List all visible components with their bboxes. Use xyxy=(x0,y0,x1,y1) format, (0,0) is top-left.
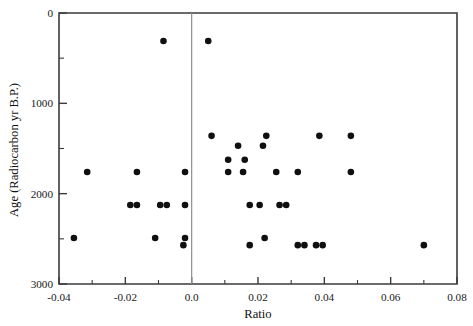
data-point xyxy=(157,202,164,209)
data-point xyxy=(225,156,232,163)
data-point xyxy=(348,133,355,140)
data-point xyxy=(182,235,189,242)
data-point xyxy=(283,202,290,209)
x-tick-label: -0.04 xyxy=(47,291,71,303)
data-point xyxy=(256,202,263,209)
x-tick-label: 0.04 xyxy=(315,291,335,303)
data-point xyxy=(182,169,189,176)
x-tick-label: 0.06 xyxy=(381,291,401,303)
data-point xyxy=(84,169,91,176)
data-point xyxy=(71,235,78,242)
data-point xyxy=(421,242,428,249)
major-tick-marks xyxy=(59,13,457,284)
data-point xyxy=(160,38,167,45)
x-tick-label: -0.02 xyxy=(114,291,137,303)
data-point xyxy=(276,202,283,209)
axes-frame xyxy=(59,13,457,284)
data-point xyxy=(319,242,326,249)
data-point xyxy=(163,202,170,209)
x-tick-label: 0.08 xyxy=(447,291,467,303)
data-point xyxy=(241,156,248,163)
data-point xyxy=(205,38,212,45)
y-axis-title: Age (Radiocarbon yr B.P.) xyxy=(7,83,21,217)
data-point xyxy=(313,242,320,249)
x-tick-label: 0.0 xyxy=(185,291,199,303)
y-tick-label: 2000 xyxy=(31,188,54,200)
x-tick-label: 0.02 xyxy=(248,291,268,303)
data-point xyxy=(182,202,189,209)
plot-border xyxy=(59,13,457,284)
data-point xyxy=(134,202,141,209)
x-axis-title: Ratio xyxy=(244,307,271,321)
data-point xyxy=(260,142,267,149)
data-point xyxy=(273,169,280,176)
data-point xyxy=(240,169,247,176)
data-point xyxy=(348,169,355,176)
y-axis-tick-labels: 0100020003000 xyxy=(31,7,54,290)
data-point xyxy=(235,142,242,149)
data-point xyxy=(261,235,268,242)
data-point-layer xyxy=(71,38,428,249)
data-point xyxy=(301,242,308,249)
data-point xyxy=(225,169,232,176)
data-point xyxy=(316,133,323,140)
plot-canvas: -0.04-0.020.00.020.040.060.08 0100020003… xyxy=(0,0,473,326)
data-point xyxy=(208,133,215,140)
data-point xyxy=(134,169,141,176)
x-axis-tick-labels: -0.04-0.020.00.020.040.060.08 xyxy=(47,291,467,303)
data-point xyxy=(295,242,302,249)
data-point xyxy=(246,242,253,249)
data-point xyxy=(127,202,134,209)
data-point xyxy=(246,202,253,209)
y-tick-label: 0 xyxy=(47,7,53,19)
data-point xyxy=(295,169,302,176)
y-tick-label: 1000 xyxy=(31,97,54,109)
scatter-plot-figure: -0.04-0.020.00.020.040.060.08 0100020003… xyxy=(0,0,473,326)
data-point xyxy=(152,235,159,242)
y-tick-label: 3000 xyxy=(31,278,54,290)
data-point xyxy=(263,133,270,140)
data-point xyxy=(180,242,187,249)
